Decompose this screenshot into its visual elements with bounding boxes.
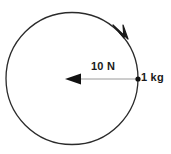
mass-value-label: 1 kg [141,72,164,83]
physics-diagram-figure: 10 N 1 kg [0,0,171,154]
clockwise-direction-arrowhead [113,25,128,39]
mass-point-dot [135,76,140,81]
force-vector-arrowhead [65,74,81,85]
force-magnitude-label: 10 N [91,61,115,72]
